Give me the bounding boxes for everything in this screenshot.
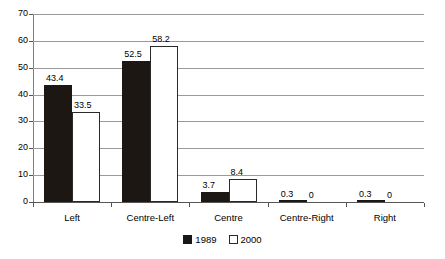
legend-item-1989: 1989 — [183, 234, 216, 245]
x-tick-mark — [33, 203, 34, 207]
bar-2000-left — [72, 112, 100, 202]
bar-1989-left — [44, 85, 72, 202]
y-tick-label: 10 — [0, 170, 28, 179]
bar-1989-right — [357, 200, 385, 202]
bar-1989-centre-right — [279, 200, 307, 202]
gridline — [33, 14, 424, 15]
x-tick-mark — [346, 203, 347, 207]
legend-label-2000: 2000 — [241, 234, 262, 245]
bar-2000-centre — [229, 179, 257, 202]
gridline — [33, 95, 424, 96]
bar-value-label: 43.4 — [46, 74, 64, 83]
gridline — [33, 68, 424, 69]
y-tick-label: 70 — [0, 9, 28, 18]
bar-value-label: 33.5 — [74, 101, 92, 110]
bar-value-label: 3.7 — [203, 181, 216, 190]
y-tick-label: 30 — [0, 116, 28, 125]
legend: 1989 2000 — [0, 234, 445, 245]
gridline — [33, 41, 424, 42]
bar-value-label: 0.3 — [359, 190, 372, 199]
x-category-label: Centre — [189, 212, 267, 223]
legend-swatch-2000 — [229, 235, 238, 244]
x-category-label: Right — [346, 212, 424, 223]
x-category-label: Centre-Right — [268, 212, 346, 223]
x-tick-mark — [111, 203, 112, 207]
y-axis-line — [33, 14, 34, 202]
x-category-label: Centre-Left — [111, 212, 189, 223]
x-category-label: Left — [33, 212, 111, 223]
bar-value-label: 52.5 — [124, 50, 142, 59]
legend-item-2000: 2000 — [229, 234, 262, 245]
bar-1989-centre-left — [122, 61, 150, 202]
bar-value-label: 0.3 — [281, 190, 294, 199]
x-tick-mark — [424, 203, 425, 207]
bar-chart: 010203040506070 43.433.552.558.23.78.40.… — [0, 0, 445, 259]
legend-swatch-1989 — [183, 235, 192, 244]
bar-value-label: 0 — [309, 191, 314, 200]
x-axis-line — [33, 202, 424, 203]
x-tick-mark — [189, 203, 190, 207]
plot-area: 43.433.552.558.23.78.40.300.30 LeftCentr… — [33, 14, 424, 202]
y-tick-label: 0 — [0, 197, 28, 206]
bar-1989-centre — [201, 192, 229, 202]
bar-value-label: 8.4 — [231, 168, 244, 177]
x-tick-mark — [268, 203, 269, 207]
y-tick-label: 60 — [0, 36, 28, 45]
y-tick-label: 40 — [0, 90, 28, 99]
y-tick-label: 50 — [0, 63, 28, 72]
bar-value-label: 58.2 — [152, 35, 170, 44]
y-tick-label: 20 — [0, 143, 28, 152]
bar-2000-centre-left — [150, 46, 178, 202]
legend-label-1989: 1989 — [195, 234, 216, 245]
bar-value-label: 0 — [387, 191, 392, 200]
